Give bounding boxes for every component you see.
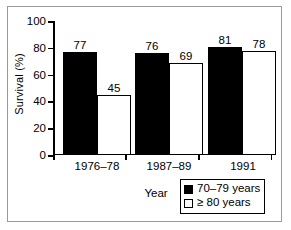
- y-tick-label-20: 20: [33, 122, 46, 134]
- legend-swatch-filled-icon: [184, 185, 193, 194]
- bar-value-label: 69: [180, 50, 193, 62]
- legend: 70–79 years ≥ 80 years: [180, 179, 265, 214]
- x-tick-1: [125, 155, 127, 160]
- x-tick-0: [53, 155, 55, 160]
- bar-value-label: 76: [146, 40, 159, 52]
- x-axis-title: Year: [144, 187, 167, 199]
- bar-value-label: 78: [253, 38, 266, 50]
- bar-1987-89-80plus[interactable]: 69: [169, 63, 203, 156]
- legend-label: ≥ 80 years: [197, 197, 251, 209]
- x-tick-label-1991: 1991: [230, 160, 256, 172]
- figure-container: Survival (%) 0 20 40 60 80 100: [0, 0, 291, 230]
- y-axis-line: [53, 21, 55, 155]
- bar-value-label: 45: [108, 82, 121, 94]
- bar-1991-80plus[interactable]: 78: [242, 51, 276, 156]
- legend-swatch-open-icon: [184, 199, 193, 208]
- y-axis-title: Survival (%): [13, 39, 25, 129]
- x-tick-2: [198, 155, 200, 160]
- y-tick-label-100: 100: [27, 15, 46, 27]
- x-tick-label-1987-89: 1987–89: [147, 160, 192, 172]
- y-tick-label-60: 60: [33, 69, 46, 81]
- y-tick-label-0: 0: [40, 149, 46, 161]
- bar-value-label: 77: [74, 39, 87, 51]
- y-tick-label-40: 40: [33, 95, 46, 107]
- legend-item-70-79[interactable]: 70–79 years: [184, 182, 260, 196]
- x-tick-3: [271, 155, 273, 160]
- bar-1991-70-79[interactable]: 81: [208, 47, 242, 156]
- legend-label: 70–79 years: [197, 183, 260, 195]
- bar-value-label: 81: [219, 34, 232, 46]
- bar-1976-78-70-79[interactable]: 77: [63, 52, 97, 155]
- y-tick-label-80: 80: [33, 42, 46, 54]
- x-tick-label-1976-78: 1976–78: [75, 160, 120, 172]
- bar-1987-89-70-79[interactable]: 76: [135, 53, 169, 155]
- legend-item-80plus[interactable]: ≥ 80 years: [184, 196, 260, 210]
- plot-area: 0 20 40 60 80 100 77: [53, 21, 272, 155]
- bar-1976-78-80plus[interactable]: 45: [97, 95, 131, 155]
